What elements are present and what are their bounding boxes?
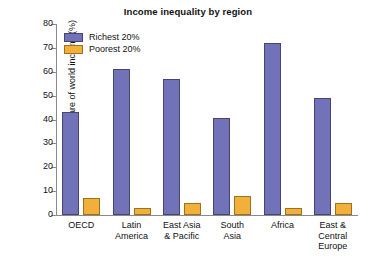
- x-axis-label: East Asia& Pacific: [157, 220, 207, 241]
- y-tick-label: 30: [43, 137, 53, 148]
- x-axis-label-line: Latin: [106, 220, 156, 231]
- bar-richest: [163, 79, 180, 215]
- y-tick: 70: [56, 48, 57, 49]
- x-axis-label: Africa: [257, 220, 307, 231]
- x-axis-label-line: Europe: [308, 241, 358, 252]
- legend-swatch-poorest-icon: [64, 45, 83, 54]
- y-tick: 20: [56, 167, 57, 168]
- bar-group: [163, 24, 201, 215]
- bar-poorest: [335, 203, 352, 215]
- y-tick-label: 80: [43, 18, 53, 29]
- x-axis-label-line: Central: [308, 231, 358, 242]
- y-tick-label: 60: [43, 66, 53, 77]
- y-tick: 10: [56, 191, 57, 192]
- bar-group: [264, 24, 302, 215]
- x-axis-label: East &CentralEurope: [308, 220, 358, 252]
- x-axis-label-line: East Asia: [157, 220, 207, 231]
- bar-poorest: [234, 196, 251, 215]
- bar-richest: [314, 98, 331, 215]
- legend-item-poorest: Poorest 20%: [64, 44, 141, 54]
- x-axis-label-line: America: [106, 231, 156, 242]
- y-tick: 30: [56, 143, 57, 144]
- y-tick-label: 10: [43, 185, 53, 196]
- bar-group: [314, 24, 352, 215]
- bar-poorest: [83, 198, 100, 215]
- bar-poorest: [285, 208, 302, 215]
- bar-group: [213, 24, 251, 215]
- y-tick-label: 50: [43, 90, 53, 101]
- chart-title: Income inequality by region: [0, 6, 376, 17]
- legend-label-poorest: Poorest 20%: [89, 44, 141, 54]
- x-axis-label: LatinAmerica: [106, 220, 156, 241]
- bar-richest: [264, 43, 281, 215]
- bar-richest: [113, 69, 130, 215]
- y-tick-label: 40: [43, 114, 53, 125]
- x-axis-label-line: South: [207, 220, 257, 231]
- bar-poorest: [184, 203, 201, 215]
- x-axis-label-line: OECD: [56, 220, 106, 231]
- y-tick-label: 70: [43, 42, 53, 53]
- y-tick: 40: [56, 120, 57, 121]
- bar-richest: [213, 118, 230, 215]
- y-tick: 80: [56, 24, 57, 25]
- chart-legend: Richest 20% Poorest 20%: [64, 32, 141, 56]
- y-tick: 0: [56, 215, 57, 216]
- bar-poorest: [134, 208, 151, 215]
- legend-item-richest: Richest 20%: [64, 32, 141, 42]
- legend-label-richest: Richest 20%: [89, 32, 140, 42]
- x-axis-line: [56, 215, 358, 216]
- x-axis-label-line: Africa: [257, 220, 307, 231]
- y-tick-label: 20: [43, 161, 53, 172]
- bar-richest: [62, 112, 79, 215]
- x-axis-label: SouthAsia: [207, 220, 257, 241]
- legend-swatch-richest-icon: [64, 33, 83, 42]
- x-axis-label-line: & Pacific: [157, 231, 207, 242]
- x-axis-label: OECD: [56, 220, 106, 231]
- y-tick-label: 0: [48, 209, 53, 220]
- income-inequality-chart: Income inequality by region Share of wor…: [0, 0, 376, 263]
- y-tick: 50: [56, 96, 57, 97]
- y-tick: 60: [56, 72, 57, 73]
- x-axis-label-line: Asia: [207, 231, 257, 242]
- x-axis-label-line: East &: [308, 220, 358, 231]
